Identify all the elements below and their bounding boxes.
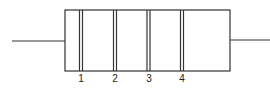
resistor-diagram bbox=[0, 0, 270, 91]
band-label-3: 3 bbox=[144, 73, 154, 84]
band-label-4: 4 bbox=[177, 73, 187, 84]
band-label-2: 2 bbox=[110, 73, 120, 84]
band-label-1: 1 bbox=[76, 73, 86, 84]
